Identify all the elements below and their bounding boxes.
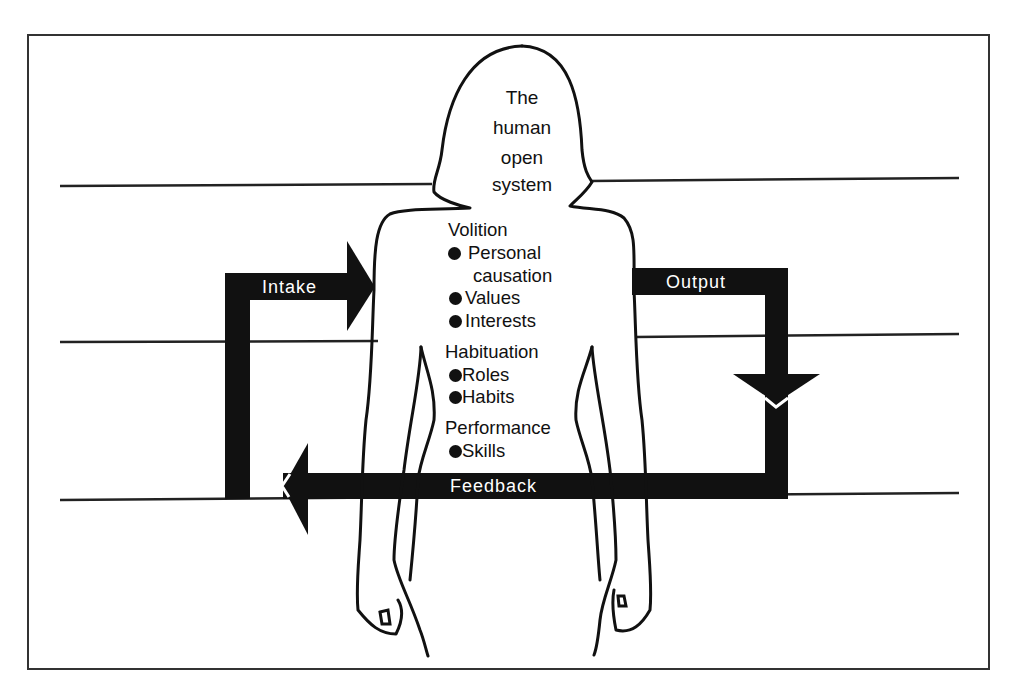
bullet-icon	[448, 247, 461, 260]
bullet-icon	[449, 445, 462, 458]
item-label: Values	[465, 287, 520, 308]
head-title-line-3: open	[462, 148, 582, 167]
habituation-item-habits: Habits	[449, 388, 514, 407]
item-label: Roles	[462, 364, 509, 385]
volition-item-values: Values	[449, 289, 520, 308]
head-title-line-4: system	[462, 175, 582, 194]
volition-item-interests: Interests	[449, 312, 536, 331]
bullet-icon	[449, 391, 462, 404]
head-title-line-1: The	[462, 88, 582, 107]
environment-line-middle	[60, 341, 378, 342]
item-label: Personal	[468, 242, 541, 263]
feedback-arrowhead-icon	[283, 443, 308, 535]
environment-line-top-right	[590, 178, 959, 181]
environment-line-top	[60, 184, 432, 186]
left-arm-inner	[394, 347, 428, 656]
bullet-icon	[449, 315, 462, 328]
environment-lines	[60, 178, 959, 500]
feedback-label: Feedback	[450, 477, 537, 495]
item-label: Skills	[462, 440, 505, 461]
item-label: Interests	[465, 310, 536, 331]
output-arrowhead-icon	[733, 374, 820, 403]
performance-item-skills: Skills	[449, 442, 505, 461]
environment-line-middle-right	[635, 334, 959, 337]
output-label: Output	[666, 273, 726, 291]
subsystem-volition-heading: Volition	[448, 221, 508, 240]
right-hand-mark-icon	[618, 596, 626, 606]
intake-arrowhead-icon	[347, 241, 375, 331]
bullet-icon	[449, 292, 462, 305]
habituation-item-roles: Roles	[449, 366, 509, 385]
item-label: Habits	[462, 386, 514, 407]
loop-left-bar	[225, 273, 250, 499]
head-title-line-2: human	[462, 118, 582, 137]
intake-label: Intake	[262, 278, 317, 296]
volition-item-personal: Personal	[448, 244, 541, 263]
volition-item-causation: causation	[473, 267, 552, 286]
bullet-icon	[449, 369, 462, 382]
subsystem-performance-heading: Performance	[445, 419, 551, 438]
left-hand-mark-icon	[380, 610, 390, 624]
left-arm-inner-2	[410, 347, 434, 580]
subsystem-habituation-heading: Habituation	[445, 343, 539, 362]
